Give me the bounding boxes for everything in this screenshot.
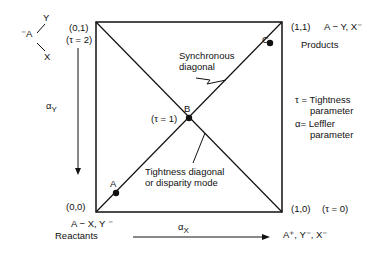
corner-tr-species: A − Y, X⁻	[324, 22, 362, 32]
legend-alpha-2: parameter	[310, 130, 353, 140]
point-c-label: C	[262, 35, 269, 45]
corner-tl-tau: (τ = 2)	[66, 35, 92, 45]
corner-bl-species: A − X, Y ⁻	[71, 219, 113, 229]
synchronous-label-1: Synchronous	[179, 51, 234, 61]
alpha-y-label: αY	[46, 101, 57, 114]
corner-tl-coord: (0,1)	[69, 23, 89, 33]
synchronous-label-2: diagonal	[179, 62, 215, 72]
legend-tau-1: τ = Tightness	[295, 95, 350, 105]
molecule-top: Y	[43, 13, 49, 23]
point-a-label: A	[110, 179, 116, 189]
bond-x	[37, 43, 45, 51]
corner-br-coord: (1,0)	[291, 204, 311, 214]
tightness-pointer	[193, 133, 205, 163]
molecule-center: ⁻A	[21, 29, 32, 39]
tightness-label-2: or disparity mode	[145, 178, 218, 188]
corner-br-tau: (τ = 0)	[322, 204, 348, 214]
legend-alpha-1: α= Leffler	[295, 119, 335, 129]
point-b-tau: (τ = 1)	[151, 114, 177, 124]
molecule-bottom: X	[44, 52, 50, 62]
legend-tau-2: parameter	[310, 106, 353, 116]
corner-bl-label: Reactants	[55, 231, 98, 241]
alpha-x-label: αX	[178, 222, 189, 235]
corner-br-species: A⁺, Y⁻, X⁻	[283, 230, 327, 240]
arrow-down-icon	[75, 168, 81, 175]
arrow-right-icon	[262, 234, 270, 240]
point-b	[186, 115, 192, 121]
corner-tr-coord: (1,1)	[291, 22, 311, 32]
point-b-label: B	[184, 104, 190, 114]
corner-bl-coord: (0,0)	[66, 202, 86, 212]
tightness-label-1: Tightness diagonal	[145, 167, 224, 177]
point-a	[113, 190, 119, 196]
corner-tr-label: Products	[301, 40, 339, 50]
bond-y	[37, 24, 45, 33]
